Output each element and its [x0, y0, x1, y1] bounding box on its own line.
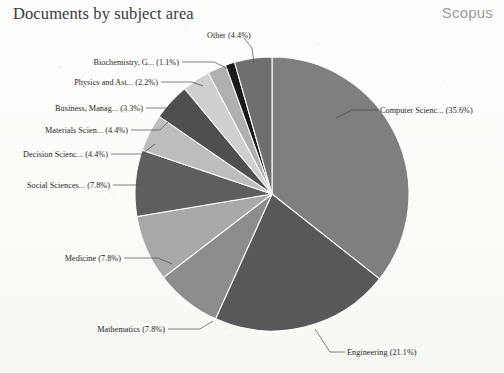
leader-business: [146, 101, 186, 108]
label-social-sciences: Social Sciences... (7.8%): [27, 181, 110, 190]
label-other: Other (4.4%): [207, 31, 251, 40]
pie-chart: Computer Scienc... (35.6%) Engineering (…: [0, 0, 504, 373]
leader-medicine: [124, 258, 172, 264]
label-decision-sciences: Decision Scienc... (4.4%): [23, 150, 108, 159]
label-biochemistry: Biochemistry, G... (1.1%): [93, 58, 179, 67]
leader-decision-sciences: [111, 144, 155, 154]
leader-computer-science: [336, 110, 378, 118]
label-physics: Physics and Ast... (2.2%): [74, 78, 158, 87]
label-medicine: Medicine (7.8%): [65, 254, 121, 263]
chart-page: Documents by subject area Scopus Compute…: [0, 0, 504, 373]
label-materials-science: Materials Scien... (4.4%): [45, 126, 128, 135]
leader-biochemistry: [182, 62, 231, 70]
leader-physics: [161, 82, 203, 86]
label-computer-science: Computer Scienc... (35.6%): [380, 106, 473, 115]
leader-materials-science: [131, 119, 171, 130]
label-engineering: Engineering (21.1%): [347, 348, 417, 357]
label-business: Business, Manag... (3.3%): [55, 104, 143, 113]
leader-mathematics: [168, 321, 213, 329]
leader-engineering: [315, 329, 345, 352]
label-mathematics: Mathematics (7.8%): [97, 325, 165, 334]
leader-other: [244, 38, 254, 63]
